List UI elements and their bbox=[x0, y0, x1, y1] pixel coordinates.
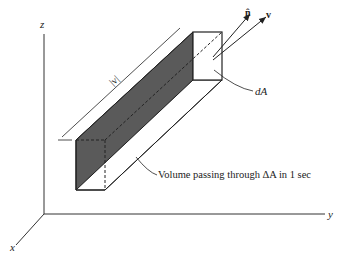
volume-leader-line bbox=[136, 157, 157, 175]
volume-label: Volume passing through ΔA in 1 sec bbox=[158, 169, 311, 180]
x-axis bbox=[16, 214, 44, 245]
flux-tube-diagram: z y x |v| n̂ v dA Volume passing through… bbox=[0, 0, 343, 261]
z-axis-label: z bbox=[39, 18, 45, 30]
speed-label: |v| bbox=[107, 73, 121, 87]
velocity-vector-label: v bbox=[266, 9, 271, 20]
flux-prism bbox=[76, 32, 222, 190]
normal-vector-label: n̂ bbox=[245, 7, 251, 18]
area-label: dA bbox=[255, 85, 268, 97]
x-axis-label: x bbox=[9, 241, 15, 253]
y-axis-label: y bbox=[327, 208, 333, 220]
